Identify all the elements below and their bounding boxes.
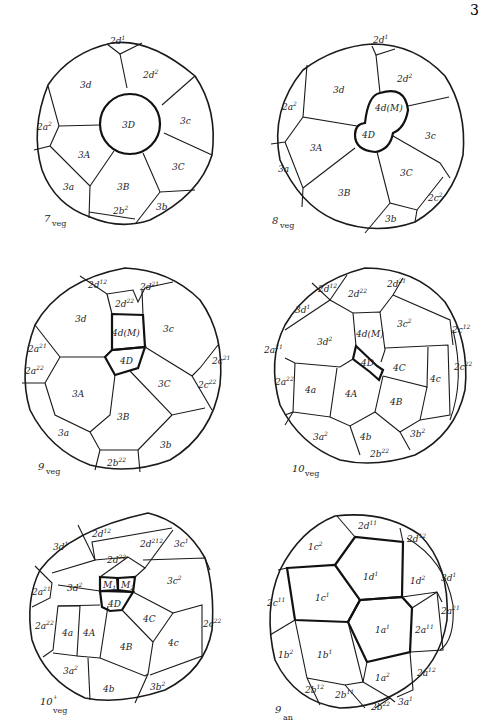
cell-label: 2a21 (31, 585, 51, 597)
cell-label: 3B (117, 182, 130, 192)
cell-label: 4b (102, 684, 115, 694)
cell-label: 1d2 (410, 574, 426, 586)
cell-label: 2d22 (114, 297, 134, 309)
cell-label: 2d22 (347, 287, 367, 299)
cell-label: 2b11 (334, 688, 354, 700)
cell-label: 4D (361, 130, 375, 140)
cell-label: 2b22 (370, 700, 390, 712)
caption-subscript: veg (45, 467, 60, 476)
cell-label: 3a1 (398, 695, 413, 707)
caption-number: 9 (275, 704, 282, 715)
cell-label: 2b22 (106, 456, 126, 468)
cell-label: M2 (120, 580, 134, 591)
cell-label: 2d1 (372, 33, 388, 45)
cell-label: 3B (338, 188, 351, 198)
caption-number: 8 (272, 215, 278, 226)
cell-label: 2b12 (304, 683, 324, 695)
cell-label: 2d12 (406, 532, 426, 544)
cell-label: 4B (119, 642, 133, 652)
cell-label: 3B (117, 412, 130, 422)
cell-label: 3b2 (410, 427, 426, 439)
cell-label: 2a12 (416, 666, 436, 678)
cell-label: 4a (61, 628, 73, 638)
diagram-10veg: 2d12 2d22 2d21 3d1 3c2 2c12 4d(M) 3d2 2a… (245, 240, 490, 480)
cell-label: 3c2 (167, 574, 182, 586)
cell-label: 3b (385, 214, 397, 224)
cell-label: 2d11 (357, 519, 377, 531)
cell-label: 2c22 (202, 617, 222, 629)
cell-label: 2d21 (386, 277, 406, 289)
cell-label: 2a2 (36, 120, 52, 132)
diagram-10plus-veg: 2d12 2d212 3c1 3d1 2d22 M1 M2 3c2 2a21 3… (0, 480, 245, 727)
cell-label: 2b2 (112, 204, 129, 216)
cell-label: 2a22 (274, 375, 294, 387)
cell-label: 4d(M) (111, 328, 140, 338)
cell-label: 2a21 (27, 342, 47, 354)
cell-label: 3c (180, 116, 191, 126)
cell-label: 1c1 (315, 591, 330, 603)
cell-label: 2d12 (91, 527, 111, 539)
cell-label: 4d(M) (374, 103, 403, 113)
cell-label: 2a2 (281, 100, 297, 112)
cell-label: 1a2 (375, 671, 390, 683)
cell-label: 2c11 (266, 596, 285, 608)
cell-label: 2c22 (197, 378, 217, 390)
cell-label: 3b (160, 440, 172, 450)
cell-label: 3d2 (67, 581, 83, 593)
cell-label: 3A (310, 143, 323, 153)
cell-label: 3d (333, 85, 345, 95)
cell-label: 2d1 (109, 34, 125, 46)
caption-subscript: veg (279, 221, 294, 230)
diagram-8veg: 2d1 2d2 3d 4d(M) 2a2 4D 3c 3A 3C 3a 3B 2… (245, 0, 490, 240)
cell-label: 3a (278, 164, 289, 174)
cell-label: 2d12 (87, 278, 107, 290)
cell-label: 2d2 (142, 68, 159, 80)
cell-label: 4a (304, 385, 316, 395)
cell-label: 4A (344, 389, 358, 399)
cell-label: 4d(M) (355, 329, 384, 339)
cell-label: 1b1 (317, 648, 332, 660)
caption-subscript: an (283, 713, 293, 722)
cell-label: 2d2 (396, 72, 413, 84)
cell-label: 2c21 (211, 354, 230, 366)
cell-label: 3D (122, 120, 135, 130)
cell-label: 3A (72, 389, 85, 399)
diagram-9an: 2d11 2d12 1c2 1d1 1d2 3d1 1c1 2c11 2a21 … (245, 480, 490, 727)
cell-label: 3c (425, 131, 436, 141)
cell-label: 3C (158, 379, 171, 389)
cell-label: 3c (163, 324, 174, 334)
cell-label: 3d1 (441, 571, 456, 583)
caption-number: 9 (38, 461, 45, 472)
cell-label: 3C (400, 168, 413, 178)
caption-subscript: veg (304, 469, 319, 478)
caption-subscript: veg (52, 706, 67, 715)
cell-label: 2b22 (369, 447, 389, 459)
cell-label: 4A (82, 628, 96, 638)
cell-label: 1d1 (363, 570, 378, 582)
cell-label: 3a (58, 428, 69, 438)
diagram-9veg: 2d12 2d21 2d22 3d 4d(M) 3c 2a21 4D 2a22 … (0, 240, 245, 480)
caption-number: 10 (292, 463, 305, 474)
cell-label: 3A (78, 150, 91, 160)
cell-label: 4c (429, 374, 441, 384)
cell-label: 4C (142, 614, 156, 624)
cell-label: 2d21 (139, 280, 159, 292)
cell-label: 2a11 (414, 623, 434, 635)
cell-label: 2c12 (451, 323, 471, 335)
diagram-7veg: 2d1 2d2 3d 3D 3c 2a2 3A 3C 3a 3B 3b 2b2 … (0, 0, 245, 240)
cell-label: 4D (360, 358, 374, 368)
cell-label: 4B (389, 397, 403, 407)
cell-label: 2a22 (34, 619, 54, 631)
cell-label: 2a22 (24, 364, 44, 376)
cell-label: 2a21 (263, 343, 283, 355)
cell-label: 3c2 (397, 317, 412, 329)
cell-label: 2d22 (106, 553, 126, 565)
cell-label: 3d (80, 80, 92, 90)
cell-label: 3d1 (295, 303, 310, 315)
cell-label: 1c2 (308, 540, 323, 552)
cell-label: 2d12 (317, 282, 337, 294)
cell-label: 4c (167, 638, 179, 648)
cell-label: 3b (156, 202, 168, 212)
caption-number: 10+ (40, 693, 58, 707)
cell-label: M1 (102, 580, 116, 591)
